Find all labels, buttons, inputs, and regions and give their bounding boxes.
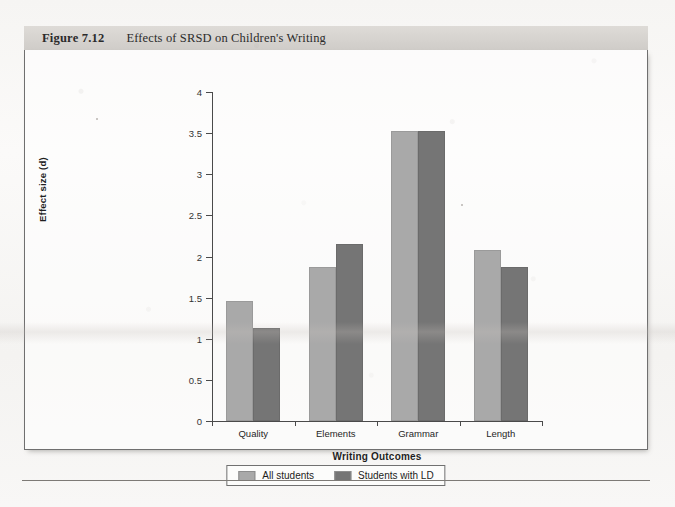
category-label: Grammar bbox=[398, 428, 438, 439]
y-tick-label: 1 bbox=[197, 333, 202, 344]
x-tick-mark bbox=[295, 421, 296, 426]
figure-body: Effect size (d) Writing Outcomes 00.511.… bbox=[24, 50, 648, 450]
y-tick-mark bbox=[206, 133, 212, 134]
y-tick-label: 3 bbox=[197, 169, 202, 180]
y-tick-label: 2.5 bbox=[189, 210, 202, 221]
paper-speck bbox=[461, 204, 463, 206]
y-tick-label: 3.5 bbox=[189, 128, 202, 139]
bar bbox=[336, 244, 363, 421]
y-tick-label: 0 bbox=[197, 416, 202, 427]
figure-number: Figure 7.12 bbox=[42, 31, 104, 46]
x-tick-mark bbox=[542, 421, 543, 426]
figure-caption-bar: Figure 7.12 Effects of SRSD on Children'… bbox=[24, 26, 648, 50]
y-tick-mark bbox=[206, 380, 212, 381]
bar bbox=[474, 250, 501, 421]
bar bbox=[226, 301, 253, 421]
x-tick-mark bbox=[212, 421, 213, 426]
y-tick: 1 bbox=[206, 339, 212, 340]
page-horizontal-rule bbox=[22, 480, 650, 481]
y-tick: 4 bbox=[206, 92, 212, 93]
y-tick-mark bbox=[206, 339, 212, 340]
y-tick: 2.5 bbox=[206, 215, 212, 216]
y-tick: 0.5 bbox=[206, 380, 212, 381]
bar bbox=[253, 328, 280, 421]
y-tick-label: 2 bbox=[197, 251, 202, 262]
legend-swatch bbox=[238, 471, 255, 481]
y-axis-line bbox=[212, 92, 213, 421]
bar bbox=[501, 267, 528, 421]
bar bbox=[309, 267, 336, 421]
x-tick-mark bbox=[377, 421, 378, 426]
y-tick-mark bbox=[206, 257, 212, 258]
y-tick: 3.5 bbox=[206, 133, 212, 134]
category-label: Length bbox=[486, 428, 515, 439]
bar-chart: Effect size (d) Writing Outcomes 00.511.… bbox=[25, 50, 647, 449]
category-label: Quality bbox=[238, 428, 268, 439]
y-tick-mark bbox=[206, 92, 212, 93]
y-tick-mark bbox=[206, 215, 212, 216]
y-tick-label: 0.5 bbox=[189, 374, 202, 385]
chart-legend: All studentsStudents with LD bbox=[226, 465, 445, 486]
y-tick-mark bbox=[206, 298, 212, 299]
y-tick: 2 bbox=[206, 257, 212, 258]
bar bbox=[418, 131, 445, 421]
figure-title: Effects of SRSD on Children's Writing bbox=[126, 31, 326, 46]
legend-swatch bbox=[334, 471, 351, 481]
y-tick-mark bbox=[206, 174, 212, 175]
paper-speck bbox=[96, 118, 98, 120]
bar bbox=[391, 131, 418, 421]
y-tick-label: 4 bbox=[197, 87, 202, 98]
y-tick-label: 1.5 bbox=[189, 292, 202, 303]
figure-block: Figure 7.12 Effects of SRSD on Children'… bbox=[24, 26, 648, 450]
x-tick-mark bbox=[460, 421, 461, 426]
x-axis-title: Writing Outcomes bbox=[212, 451, 542, 462]
y-axis-title: Effect size (d) bbox=[37, 157, 48, 222]
y-tick: 3 bbox=[206, 174, 212, 175]
y-tick: 1.5 bbox=[206, 298, 212, 299]
category-label: Elements bbox=[316, 428, 356, 439]
